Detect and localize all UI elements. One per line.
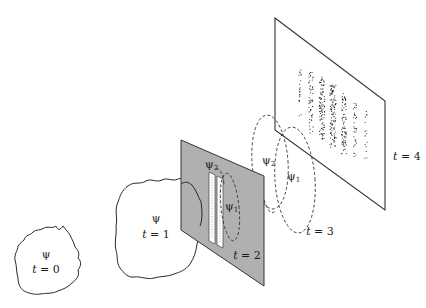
- double-slit-barrier-t2: ψ2 ψ1 t = 2: [181, 140, 264, 286]
- time-label-t3: t = 3: [306, 225, 334, 238]
- time-label-t4: t = 4: [393, 150, 421, 163]
- double-slit-diagram: ψ t = 0 ψ t = 1 ψ2 ψ1 t = 2: [0, 0, 426, 308]
- wavefunction-blob-t0: ψ t = 0: [15, 226, 81, 294]
- psi-label-t1: ψ: [152, 212, 161, 225]
- psi-label-t0: ψ: [42, 248, 51, 261]
- time-label-t2: t = 2: [233, 249, 261, 262]
- slit-1: [209, 172, 215, 244]
- time-label-t1: t = 1: [142, 228, 170, 241]
- time-label-t0: t = 0: [32, 263, 60, 276]
- wave-label-psi1: ψ1: [287, 170, 300, 184]
- wave-label-psi2: ψ2: [262, 154, 275, 168]
- slit-2: [217, 176, 223, 248]
- wave-packet-psi2-tail: [264, 200, 276, 213]
- wave-labels-t3: ψ2 ψ1 t = 3: [262, 154, 334, 238]
